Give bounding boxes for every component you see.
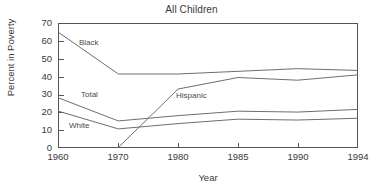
plot-frame: [59, 24, 358, 148]
y-tick-marks: [59, 24, 64, 148]
series-lines-layer: [59, 32, 358, 147]
plot-canvas: [0, 0, 383, 189]
x-tick-marks: [59, 143, 358, 148]
chart-figure: All Children Percent in Poverty Year 70 …: [0, 0, 383, 189]
series-line-black: [59, 32, 358, 74]
series-line-total: [59, 98, 358, 121]
